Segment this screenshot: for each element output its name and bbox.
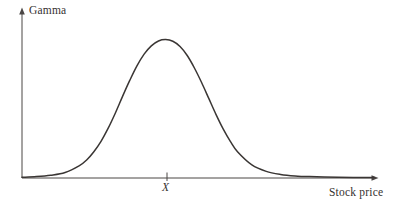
figure-canvas (0, 0, 402, 207)
y-axis-label: Gamma (29, 4, 66, 16)
strike-tick-label: X (162, 181, 169, 193)
gamma-curve (22, 40, 374, 178)
x-axis-label: Stock price (329, 186, 383, 198)
y-axis-arrowhead (19, 8, 25, 15)
gamma-vs-stock-price-figure: Gamma Stock price X (0, 0, 402, 207)
